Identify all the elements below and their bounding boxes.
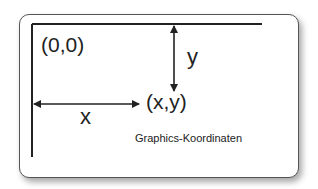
origin-label: (0,0) (41, 34, 84, 55)
point-label: (x,y) (146, 91, 187, 112)
y-label: y (187, 46, 198, 68)
x-label: x (80, 106, 91, 128)
caption: Graphics-Koordinaten (135, 133, 242, 144)
